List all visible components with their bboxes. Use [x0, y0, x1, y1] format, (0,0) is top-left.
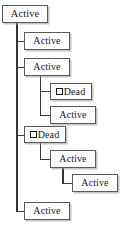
- tree-node-label: Active: [58, 154, 87, 164]
- tree-node-great-grandchild[interactable]: Active: [72, 174, 118, 192]
- tree-node-label: Active: [58, 110, 87, 120]
- tree-node-grandchild-2[interactable]: Active: [50, 150, 96, 168]
- tree-diagram-canvas: Active Active Active Dead Active Dead Ac…: [0, 0, 130, 229]
- tree-node-grandchild-1[interactable]: Active: [50, 106, 96, 124]
- tree-node-dead-2[interactable]: Dead: [24, 126, 66, 143]
- tree-node-root[interactable]: Active: [2, 5, 48, 23]
- tree-node-label: Active: [32, 62, 61, 72]
- tree-node-dead-1[interactable]: Dead: [50, 83, 92, 100]
- connector-trunk-child-2: [40, 76, 41, 116]
- connector-trunk-child-3: [40, 143, 41, 160]
- tree-node-child-1[interactable]: Active: [24, 32, 70, 50]
- tree-node-label: Dead: [63, 87, 87, 97]
- tree-node-label: Dead: [37, 130, 61, 140]
- tree-node-child-2[interactable]: Active: [24, 58, 70, 76]
- tree-node-child-4[interactable]: Active: [24, 202, 70, 220]
- connector-trunk-grandchild: [62, 168, 64, 184]
- square-glyph-icon: [56, 88, 63, 95]
- tree-node-label: Active: [10, 9, 41, 20]
- connector-trunk-root: [16, 23, 18, 212]
- tree-node-label: Active: [80, 178, 109, 188]
- tree-node-label: Active: [32, 36, 61, 46]
- square-glyph-icon: [30, 131, 37, 138]
- tree-node-label: Active: [32, 206, 61, 216]
